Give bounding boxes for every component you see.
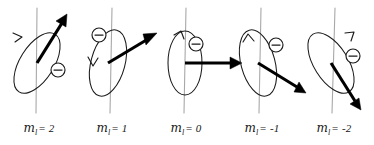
orbit-direction-arrowhead: [174, 31, 184, 39]
panel-label-ml-1: ml= 1: [81, 122, 143, 137]
orbit-direction-arrowhead: [345, 32, 354, 41]
label-symbol: m: [96, 121, 108, 135]
panel-ml--1: [233, 8, 306, 113]
label-equals: = -1: [259, 122, 279, 134]
axis-line: [259, 8, 261, 113]
angular-momentum-vector-shaft: [258, 63, 297, 87]
panel-label-ml--1: ml= -1: [228, 122, 296, 137]
angular-momentum-vector-shaft: [331, 63, 355, 101]
panel-ml-2: [5, 8, 70, 113]
label-subscript: l: [328, 128, 330, 137]
label-symbol: m: [317, 121, 329, 135]
label-subscript: l: [256, 128, 258, 137]
space-quantization-figure: ml= 2 ml= 1 ml= 0 ml= -1 ml= -2: [0, 0, 374, 145]
label-equals: = -2: [331, 122, 351, 134]
panel-ml--2: [299, 8, 364, 113]
angular-momentum-vector-shaft: [108, 39, 148, 63]
label-subscript: l: [108, 128, 110, 137]
label-subscript: l: [182, 128, 184, 137]
axis-line: [332, 8, 335, 113]
panel-label-ml-0: ml= 0: [155, 122, 217, 137]
label-equals: = 2: [38, 122, 54, 134]
axis-line: [184, 8, 186, 113]
orbit-direction-arrowhead: [88, 57, 98, 66]
panel-label-ml-2: ml= 2: [8, 122, 70, 137]
label-symbol: m: [245, 121, 257, 135]
label-symbol: m: [23, 121, 35, 135]
label-equals: = 0: [185, 122, 201, 134]
panel-ml-0: [168, 8, 242, 113]
angular-momentum-vector-arrowhead: [143, 33, 157, 45]
panel-label-ml--2: ml= -2: [300, 122, 368, 137]
orbit-direction-arrowhead: [13, 33, 22, 42]
label-subscript: l: [35, 128, 37, 137]
label-symbol: m: [170, 121, 182, 135]
panel-ml-1: [83, 8, 157, 113]
label-equals: = 1: [111, 122, 127, 134]
orbit-direction-arrowhead: [243, 34, 254, 42]
